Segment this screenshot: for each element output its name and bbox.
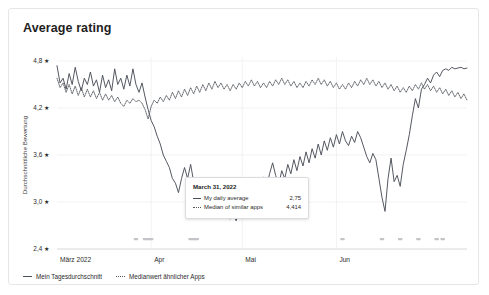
- chart-legend: Mein Tagesdurchschnitt Medianwert ähnlic…: [23, 273, 205, 280]
- legend-label: Medianwert ähnlicher Apps: [129, 273, 205, 280]
- x-axis-tick-label: Jun: [339, 256, 350, 263]
- x-axis-tick-label: Apr: [154, 256, 165, 264]
- dotted-line-icon: [193, 205, 201, 210]
- event-marker-tick: [398, 238, 402, 240]
- tooltip-row-my-daily-average: My daily average 2,75: [193, 194, 301, 203]
- event-marker-tick: [340, 238, 344, 240]
- dotted-line-icon: [116, 274, 125, 279]
- event-marker-tick: [434, 238, 438, 240]
- chart-tooltip: March 31, 2022 My daily average 2,75 Med…: [185, 177, 309, 219]
- event-marker-tick: [195, 238, 199, 240]
- legend-label: Mein Tagesdurchschnitt: [36, 273, 102, 280]
- solid-line-icon: [193, 196, 201, 201]
- tooltip-label: Median of similar apps: [204, 203, 263, 212]
- y-axis-tick-label: 3,0 ★: [33, 198, 49, 205]
- tooltip-value: 2,75: [284, 194, 301, 203]
- series-line-median-similar-apps: [57, 78, 467, 119]
- y-axis-tick-label: 4,2 ★: [33, 104, 49, 111]
- solid-line-icon: [23, 274, 32, 279]
- tooltip-row-median-similar-apps: Median of similar apps 4,414: [193, 203, 301, 212]
- y-axis-tick-label: 2,4 ★: [33, 245, 49, 252]
- average-rating-line-chart: 4,8 ★4,2 ★3,6 ★3,0 ★2,4 ★Durchschnittlic…: [9, 43, 478, 284]
- event-marker-tick: [149, 238, 153, 240]
- chart-plot-area: 4,8 ★4,2 ★3,6 ★3,0 ★2,4 ★Durchschnittlic…: [9, 43, 478, 284]
- tooltip-date: March 31, 2022: [193, 183, 301, 190]
- y-axis-title: Durchschnittliche Bewertung: [21, 115, 28, 194]
- y-axis-tick-label: 3,6 ★: [33, 151, 49, 158]
- x-axis-tick-label: Mai: [245, 256, 256, 263]
- event-marker-tick: [416, 238, 420, 240]
- legend-item-medianwert-aehnlicher-apps[interactable]: Medianwert ähnlicher Apps: [116, 273, 205, 280]
- x-axis-tick-label: März 2022: [60, 256, 91, 263]
- event-marker-tick: [134, 238, 138, 240]
- legend-item-mein-tagesdurchschnitt[interactable]: Mein Tagesdurchschnitt: [23, 273, 102, 280]
- page-title: Average rating: [23, 21, 111, 35]
- tooltip-label: My daily average: [204, 194, 249, 203]
- tooltip-value: 4,414: [280, 203, 301, 212]
- y-axis-tick-label: 4,8 ★: [33, 57, 49, 64]
- event-marker-tick: [441, 238, 445, 240]
- event-marker-tick: [380, 238, 384, 240]
- screenshot-root: Average rating 4,8 ★4,2 ★3,6 ★3,0 ★2,4 ★…: [0, 0, 489, 295]
- average-rating-card: Average rating 4,8 ★4,2 ★3,6 ★3,0 ★2,4 ★…: [8, 8, 479, 285]
